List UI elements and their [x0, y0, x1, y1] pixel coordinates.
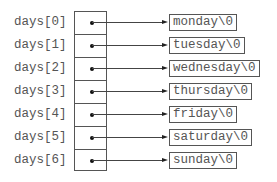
string-box: thursday\0	[169, 83, 252, 100]
index-label: days[0]	[14, 14, 72, 30]
arrowhead-icon	[162, 20, 168, 24]
arrowhead-icon	[162, 66, 168, 70]
array-cell-0	[75, 12, 106, 35]
arrowhead-icon	[162, 135, 168, 139]
string-box: friday\0	[169, 106, 237, 123]
arrowhead-icon	[162, 89, 168, 93]
pointer-arrow	[92, 114, 163, 115]
string-box: saturday\0	[169, 129, 252, 146]
array-cell-4	[75, 104, 106, 127]
string-box: sunday\0	[169, 152, 237, 169]
pointer-arrow	[92, 22, 163, 23]
array-cell-2	[75, 58, 106, 81]
array-cell-5	[75, 127, 106, 150]
index-label: days[1]	[14, 37, 72, 53]
array-cell-6	[75, 150, 106, 173]
arrowhead-icon	[162, 112, 168, 116]
pointer-arrow	[92, 45, 163, 46]
index-label: days[6]	[14, 152, 72, 168]
index-label: days[2]	[14, 60, 72, 76]
array-cell-1	[75, 35, 106, 58]
index-label: days[3]	[14, 83, 72, 99]
index-label: days[5]	[14, 129, 72, 145]
arrowhead-icon	[162, 158, 168, 162]
pointer-arrow	[92, 160, 163, 161]
pointer-arrow	[92, 137, 163, 138]
pointer-arrow	[92, 91, 163, 92]
string-box: monday\0	[169, 14, 237, 31]
string-box: tuesday\0	[169, 37, 245, 54]
string-box: wednesday\0	[169, 60, 260, 77]
index-label: days[4]	[14, 106, 72, 122]
arrowhead-icon	[162, 43, 168, 47]
array-cell-3	[75, 81, 106, 104]
pointer-arrow	[92, 68, 163, 69]
